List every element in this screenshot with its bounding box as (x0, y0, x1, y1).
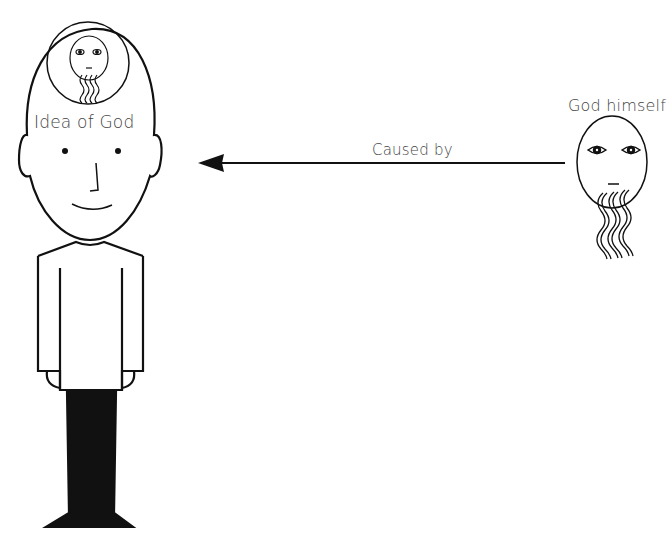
diagram-canvas (0, 0, 670, 553)
person-right-eye (115, 148, 121, 154)
god-right-eye (622, 147, 640, 154)
person-figure (19, 22, 162, 527)
person-collar (38, 242, 143, 256)
god-figure (577, 116, 647, 259)
person-legs (46, 391, 133, 527)
person-right-hand (122, 371, 134, 388)
person-left-hand (47, 371, 60, 388)
person-head (19, 29, 162, 240)
caused-by-label: Caused by (372, 141, 453, 159)
person-left-eye (62, 148, 68, 154)
god-himself-label: God himself (568, 96, 666, 115)
god-beard (597, 190, 633, 259)
god-left-eye (588, 147, 606, 154)
arrowhead-icon (198, 154, 224, 172)
thought-circle (47, 22, 129, 104)
idea-of-god-label: Idea of God (34, 112, 134, 132)
person-nose (90, 163, 98, 191)
person-torso (38, 256, 143, 390)
mini-god-icon (70, 36, 108, 103)
person-mouth (72, 204, 112, 209)
